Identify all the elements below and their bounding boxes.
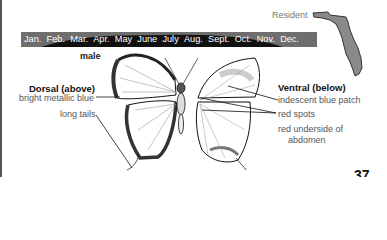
page-number: 37 [354, 167, 370, 177]
dorsal-label-tails: long tails [60, 109, 96, 119]
ventral-label-spots: red spots [278, 109, 315, 119]
ventral-label-abdomen-2: abdomen [288, 135, 326, 145]
ventral-label-abdomen-1: red underside of [278, 124, 343, 134]
ventral-label-patch: indescent blue patch [278, 95, 361, 105]
dorsal-label-color: bright metallic blue [19, 93, 94, 103]
ventral-title: Ventral (below) [278, 82, 346, 93]
